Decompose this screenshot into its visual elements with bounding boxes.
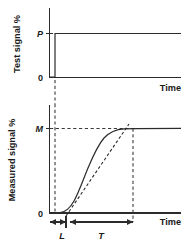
dimension-markers: L T (50, 216, 133, 241)
bottom-ytick-label-zero: 0 (38, 209, 43, 219)
top-ytick-label-zero: 0 (38, 73, 43, 83)
dimension-arrow-t-left (70, 219, 76, 225)
top-chart: P 0 Time Test signal % (12, 8, 181, 93)
test-signal-step-curve (50, 34, 181, 78)
step-response-figure: P 0 Time Test signal % M 0 Time Measur (0, 0, 188, 246)
dimension-arrow-l-left (50, 219, 56, 225)
measured-signal-curve (50, 128, 181, 212)
dimension-label-l: L (59, 231, 65, 241)
top-xaxis-title: Time (160, 83, 181, 93)
top-yaxis-title: Test signal % (12, 15, 22, 73)
bottom-chart: M 0 Time Measured signal % (7, 104, 181, 227)
bottom-ytick-label-m: M (36, 124, 44, 134)
dimension-label-t: T (98, 231, 105, 241)
top-ytick-label-p: P (37, 29, 44, 39)
inflection-tangent-line (66, 124, 129, 216)
dimension-arrow-l-right (60, 219, 66, 225)
dimension-arrow-t-right (127, 219, 133, 225)
bottom-xaxis-title: Time (160, 217, 181, 227)
bottom-yaxis-title: Measured signal % (7, 119, 17, 202)
